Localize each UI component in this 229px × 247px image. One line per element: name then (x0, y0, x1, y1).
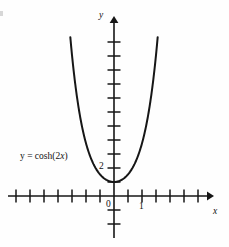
origin-tick-label: 0 (106, 200, 111, 210)
y-axis-label: y (99, 11, 103, 21)
function-graph-figure: y x 0 1 2 y = cosh(2x) (0, 0, 229, 247)
y-axis-arrowhead (110, 16, 119, 23)
graph-canvas (0, 0, 229, 247)
x-axis-group (8, 190, 214, 203)
x-tick-label-1: 1 (139, 202, 144, 212)
equation-lhs: y = (20, 151, 35, 161)
x-axis-arrowhead (207, 192, 214, 201)
equation-function: cosh(2 (35, 151, 60, 161)
curve-equation-label: y = cosh(2x) (20, 152, 68, 162)
equation-close-paren: ) (64, 151, 67, 161)
y-tick-label-2: 2 (99, 162, 104, 172)
x-axis-label: x (213, 207, 217, 217)
